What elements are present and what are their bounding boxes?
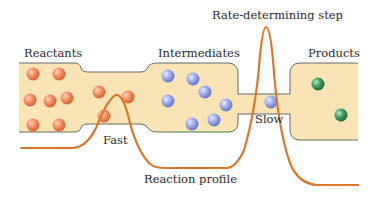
label-reaction-profile: Reaction profile xyxy=(144,174,237,186)
label-reactants: Reactants xyxy=(24,48,82,60)
label-rate-determining-step: Rate-determining step xyxy=(212,10,343,22)
label-fast: Fast xyxy=(103,135,128,147)
label-slow: Slow xyxy=(255,114,283,126)
reaction-mechanism-diagram: Reactants Intermediates Products Rate-de… xyxy=(0,0,371,211)
label-products: Products xyxy=(308,48,360,60)
label-intermediates: Intermediates xyxy=(158,48,240,60)
